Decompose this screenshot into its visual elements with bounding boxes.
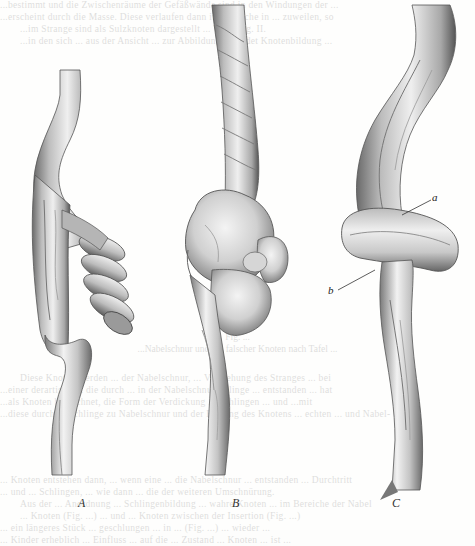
annotation-label-a: a xyxy=(432,191,438,203)
figure-a-cord xyxy=(32,70,138,475)
figure-label-c: C xyxy=(392,496,400,511)
annotation-a-leader xyxy=(402,200,431,215)
figure-label-b: B xyxy=(232,496,239,511)
figure-label-a: A xyxy=(78,496,85,511)
figure-b-cord xyxy=(185,5,288,475)
bleed-line: ... Kinder erheblich ... Einfluss ... au… xyxy=(0,534,475,546)
figure-a-coils xyxy=(76,229,139,339)
figure-c-cord xyxy=(338,5,458,500)
annotation-label-b: b xyxy=(328,284,334,296)
annotation-b-leader xyxy=(338,270,375,290)
